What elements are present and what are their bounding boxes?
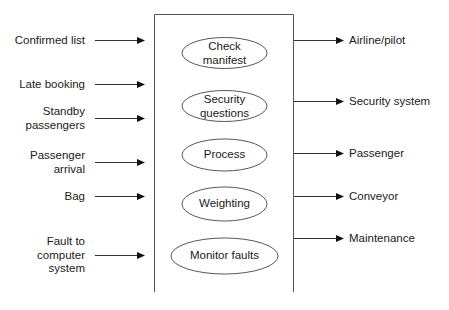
process-label-security-questions: Securityquestions <box>200 93 249 120</box>
input-label-line: Passenger <box>30 149 85 163</box>
output-label-maintenance: Maintenance <box>349 232 415 246</box>
process-label-check-manifest: Checkmanifest <box>203 40 246 67</box>
process-label-monitor-faults: Monitor faults <box>190 249 259 263</box>
process-label-line: questions <box>200 106 249 120</box>
input-label-fault-to-computer-system: Fault tocomputersystem <box>37 235 85 276</box>
input-label-line: arrival <box>30 163 85 177</box>
input-label-line: computer <box>37 249 85 263</box>
input-label-late-booking: Late booking <box>19 78 85 92</box>
process-label-line: Check <box>203 40 246 54</box>
input-label-line: system <box>37 262 85 276</box>
input-label-line: Bag <box>65 190 85 204</box>
output-label-airline-pilot: Airline/pilot <box>349 34 405 48</box>
input-label-line: Confirmed list <box>15 34 85 48</box>
process-label-line: Process <box>204 148 246 162</box>
output-label-security-system: Security system <box>349 95 430 109</box>
input-label-standby-passengers: Standbypassengers <box>26 105 85 132</box>
output-label-passenger: Passenger <box>349 147 404 161</box>
process-label-line: manifest <box>203 53 246 67</box>
input-label-line: Fault to <box>37 235 85 249</box>
input-label-confirmed-list: Confirmed list <box>15 34 85 48</box>
output-label-conveyor: Conveyor <box>349 190 398 204</box>
input-label-line: passengers <box>26 119 85 133</box>
process-label-line: Security <box>200 93 249 107</box>
input-label-line: Late booking <box>19 78 85 92</box>
input-label-line: Standby <box>26 105 85 119</box>
process-label-weighting: Weighting <box>199 197 250 211</box>
input-label-bag: Bag <box>65 190 85 204</box>
input-label-passenger-arrival: Passengerarrival <box>30 149 85 176</box>
process-label-process: Process <box>204 148 246 162</box>
process-label-line: Monitor faults <box>190 249 259 263</box>
process-label-line: Weighting <box>199 197 250 211</box>
